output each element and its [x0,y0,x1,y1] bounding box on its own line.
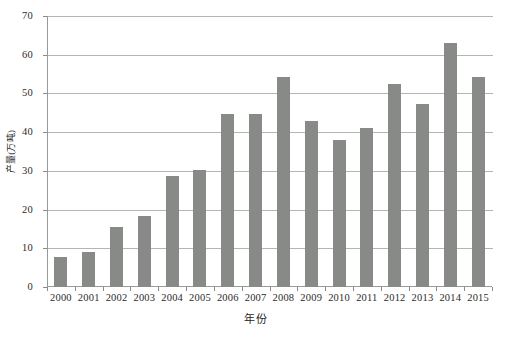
y-axis-tick-label: 20 [22,205,33,216]
bar [110,227,123,287]
bar-chart: 产量(万吨) 010203040506070 20002001200220032… [0,0,511,339]
y-axis-tick-label: 70 [22,11,33,22]
bar-series [47,16,492,287]
bar [360,128,373,288]
y-axis-tick-label: 40 [22,127,33,138]
bar [221,114,234,287]
x-axis-title: 年份 [0,310,511,326]
bar [305,121,318,287]
bar [333,140,346,287]
bar [249,114,262,287]
x-axis-tick-mark [75,287,76,291]
bar [54,257,67,287]
x-axis-tick-mark [186,287,187,291]
x-axis-tick-mark [47,287,48,291]
x-axis-tick-mark [270,287,271,291]
x-axis-tick-mark [353,287,354,291]
x-axis-tick-mark [492,287,493,291]
bar [472,77,485,287]
x-axis-tick-mark [214,287,215,291]
x-axis-tick-mark [158,287,159,291]
x-axis-tick-label: 2015 [461,292,495,304]
y-axis-tick-label: 30 [22,166,33,177]
x-axis-tick-mark [381,287,382,291]
x-axis-title-label: 年份 [244,313,267,325]
y-axis-tick-label: 10 [22,243,33,254]
bar [277,77,290,287]
x-axis-tick-mark [242,287,243,291]
y-axis-tick-label: 50 [22,88,33,99]
x-axis-labels: 2000200120022003200420052006200720082009… [47,292,492,308]
bar [444,43,457,287]
x-axis-tick-mark [130,287,131,291]
y-axis-ticks: 010203040506070 [0,0,47,339]
x-axis-tick-mark [464,287,465,291]
bar [193,170,206,287]
x-axis-tick-mark [297,287,298,291]
x-axis-tick-mark [409,287,410,291]
y-axis-tick-label: 60 [22,50,33,61]
bar [166,176,179,287]
x-axis-tick-mark [103,287,104,291]
x-axis-tick-mark [436,287,437,291]
bar [82,252,95,287]
y-axis-tick-label: 0 [28,282,33,293]
bar [138,216,151,287]
x-axis-tick-mark [325,287,326,291]
bar [416,104,429,287]
bar [388,84,401,287]
